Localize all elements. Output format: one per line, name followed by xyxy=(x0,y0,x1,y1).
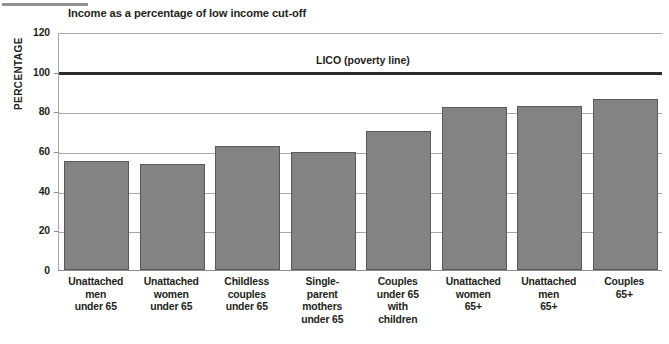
x-axis-label-5: Couplesunder 65withchildren xyxy=(360,276,436,326)
x-axis-label-line: under 65 xyxy=(209,301,285,314)
y-axis-tick-label: 40 xyxy=(10,186,50,197)
x-axis-label-line: Unattached xyxy=(511,276,587,289)
lico-reference-line xyxy=(59,72,662,75)
x-axis-label-line: parent xyxy=(285,289,361,302)
lico-reference-label: LICO (poverty line) xyxy=(316,54,410,66)
x-axis-label-line: mothers xyxy=(285,301,361,314)
x-axis-label-4: Single-parentmothersunder 65 xyxy=(285,276,361,326)
y-axis-tick-label: 0 xyxy=(10,265,50,276)
y-axis-tick-label: 120 xyxy=(10,27,50,38)
bar-8 xyxy=(593,99,658,270)
x-axis-label-line: men xyxy=(511,289,587,302)
x-axis-label-7: Unattachedmen65+ xyxy=(511,276,587,314)
y-axis-tick-label: 60 xyxy=(10,146,50,157)
bar-2 xyxy=(140,164,205,270)
x-axis-label-line: women xyxy=(436,289,512,302)
y-axis-tick-label: 20 xyxy=(10,225,50,236)
x-axis-label-3: Childlesscouplesunder 65 xyxy=(209,276,285,314)
x-axis-label-2: Unattachedwomenunder 65 xyxy=(134,276,210,314)
x-axis-label-8: Couples65+ xyxy=(587,276,663,301)
x-axis-label-line: Unattached xyxy=(58,276,134,289)
x-axis-label-line: Unattached xyxy=(436,276,512,289)
bar-4 xyxy=(291,152,356,270)
y-axis-tick-label: 80 xyxy=(10,106,50,117)
x-axis-label-line: 65+ xyxy=(587,289,663,302)
x-axis-label-line: under 65 xyxy=(58,301,134,314)
x-axis-label-line: under 65 xyxy=(360,289,436,302)
x-axis-label-6: Unattachedwomen65+ xyxy=(436,276,512,314)
bar-3 xyxy=(215,146,280,270)
x-axis-label-line: Couples xyxy=(360,276,436,289)
horizontal-rule-decoration xyxy=(2,3,88,6)
bar-7 xyxy=(517,106,582,270)
x-axis-label-line: with xyxy=(360,301,436,314)
x-axis-label-line: women xyxy=(134,289,210,302)
y-axis-tick-label: 100 xyxy=(10,67,50,78)
x-axis-label-line: men xyxy=(58,289,134,302)
x-axis-label-line: children xyxy=(360,314,436,327)
x-axis-label-line: Unattached xyxy=(134,276,210,289)
x-axis-label-line: 65+ xyxy=(511,301,587,314)
x-axis-label-1: Unattachedmenunder 65 xyxy=(58,276,134,314)
bar-5 xyxy=(366,131,431,270)
x-axis-label-line: 65+ xyxy=(436,301,512,314)
bar-1 xyxy=(64,161,129,270)
plot-area: LICO (poverty line) xyxy=(58,33,662,271)
x-axis-label-line: Childless xyxy=(209,276,285,289)
x-axis-label-line: Couples xyxy=(587,276,663,289)
x-axis-label-line: under 65 xyxy=(134,301,210,314)
x-axis-label-line: under 65 xyxy=(285,314,361,327)
bar-6 xyxy=(442,107,507,270)
x-axis-label-line: Single- xyxy=(285,276,361,289)
chart-title: Income as a percentage of low income cut… xyxy=(68,7,306,19)
x-axis-label-line: couples xyxy=(209,289,285,302)
